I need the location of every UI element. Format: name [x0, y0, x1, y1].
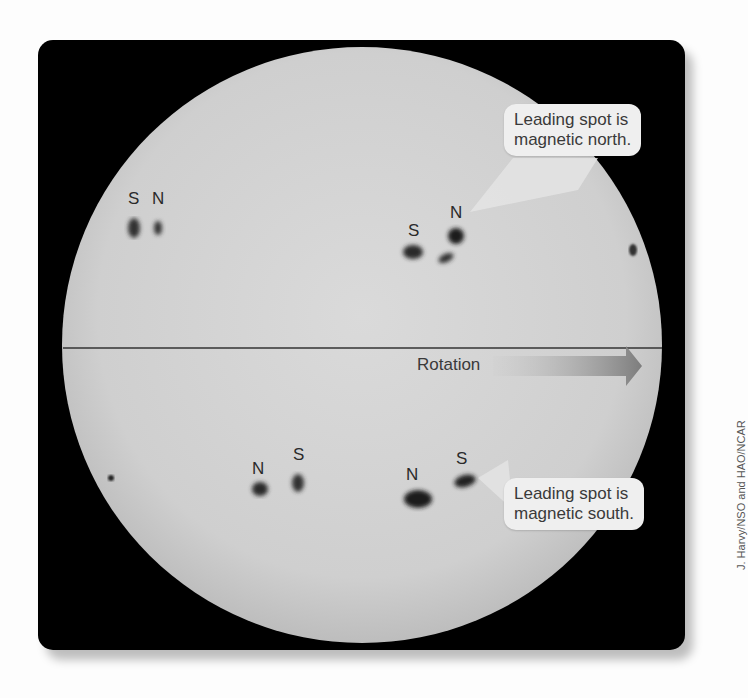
- polarity-label-ul-s: S: [128, 190, 139, 207]
- callout-south-line2: magnetic south.: [514, 504, 634, 524]
- polarity-label-ur-n: N: [450, 204, 462, 221]
- callout-north-line2: magnetic north.: [514, 130, 631, 150]
- figure-frame: S N S N N S N S Rotation Leading spot is…: [38, 40, 685, 650]
- callout-south-line1: Leading spot is: [514, 484, 634, 504]
- polarity-label-lr-s: S: [456, 450, 467, 467]
- polarity-label-ul-n: N: [152, 190, 164, 207]
- callout-leading-north: Leading spot is magnetic north.: [504, 104, 641, 156]
- callout-leading-south: Leading spot is magnetic south.: [504, 478, 644, 530]
- callout-north-line1: Leading spot is: [514, 110, 631, 130]
- image-credit: J. Harvy/NSO and HAO/NCAR: [735, 420, 747, 570]
- polarity-label-lr-n: N: [406, 466, 418, 483]
- polarity-label-ll-s: S: [293, 446, 304, 463]
- rotation-label: Rotation: [417, 355, 480, 375]
- polarity-label-ll-n: N: [252, 460, 264, 477]
- polarity-label-ur-s: S: [408, 222, 419, 239]
